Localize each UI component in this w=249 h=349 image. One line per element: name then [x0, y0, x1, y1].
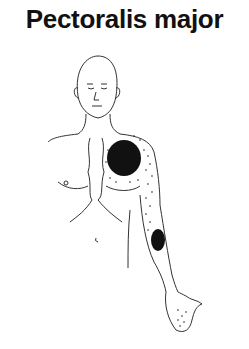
head-outline: [77, 56, 117, 118]
body-illustration: [0, 0, 249, 349]
chest-referral-zone: [107, 140, 141, 176]
forearm-referral-zone: [151, 229, 165, 251]
